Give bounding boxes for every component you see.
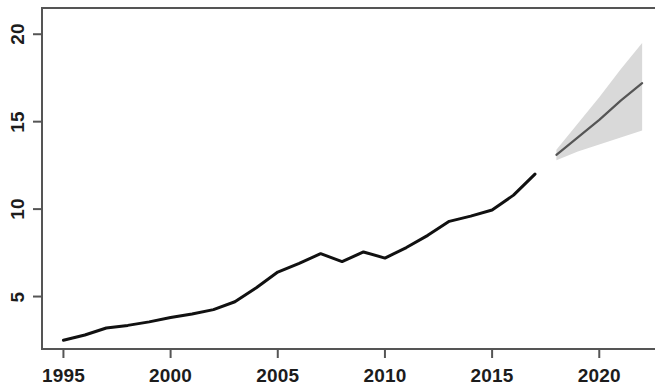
y-axis-tick-label: 15 (7, 111, 29, 133)
x-axis-tick-label: 2000 (149, 365, 192, 386)
y-axis-tick-label: 5 (7, 291, 29, 302)
historical-series-line (63, 174, 535, 340)
forecast-chart-figure: 199520002005201020152020 5101520 (0, 0, 655, 386)
x-axis-tick-label: 2005 (256, 365, 299, 386)
y-axis-ticks (33, 34, 42, 296)
x-axis-ticks (63, 349, 599, 358)
x-axis-tick-label: 2020 (578, 365, 621, 386)
plot-frame (41, 8, 655, 349)
x-axis-tick-label: 1995 (42, 365, 85, 386)
x-axis-tick-label: 2015 (471, 365, 514, 386)
x-axis-tick-label: 2010 (363, 365, 406, 386)
y-axis-tick-label: 10 (7, 198, 29, 220)
plot-canvas (0, 0, 655, 386)
y-axis-tick-label: 20 (7, 23, 29, 45)
forecast-interval-band (556, 43, 642, 160)
